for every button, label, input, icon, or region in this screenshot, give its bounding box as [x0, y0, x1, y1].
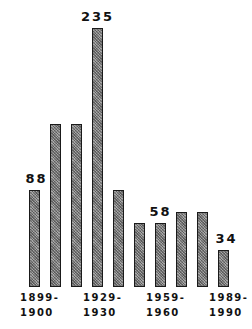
bar-1909-1910	[50, 124, 61, 287]
tick-line-2: 1960	[146, 305, 185, 320]
x-tick-label: 1899-1900	[20, 290, 59, 320]
data-label: 88	[17, 171, 57, 186]
bar-1979-1980	[197, 212, 208, 287]
tick-line-1: 1989-	[209, 290, 248, 305]
bar-1919-1920	[71, 124, 82, 287]
data-label: 235	[78, 9, 118, 24]
bar-1939-1940	[113, 190, 124, 287]
bar-1949-1950	[134, 223, 145, 287]
x-tick-label: 1929-1930	[83, 290, 122, 320]
bar-1959-1960	[155, 223, 166, 287]
bar-1899-1900	[29, 190, 40, 287]
tick-line-2: 1930	[83, 305, 122, 320]
bar-chart: 8823558341899-19001929-19301959-19601989…	[0, 0, 252, 329]
bar-1969-1970	[176, 212, 187, 287]
tick-line-1: 1929-	[83, 290, 122, 305]
data-label: 34	[207, 231, 247, 246]
tick-line-1: 1899-	[20, 290, 59, 305]
tick-line-2: 1900	[20, 305, 59, 320]
tick-line-1: 1959-	[146, 290, 185, 305]
data-label: 58	[141, 204, 181, 219]
tick-line-2: 1990	[209, 305, 248, 320]
bar-1929-1930	[92, 28, 103, 287]
x-tick-label: 1959-1960	[146, 290, 185, 320]
bar-1989-1990	[218, 250, 229, 287]
x-tick-label: 1989-1990	[209, 290, 248, 320]
